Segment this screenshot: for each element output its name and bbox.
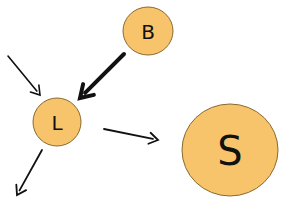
arrow-incoming-to-L: [8, 56, 40, 95]
node-l: L: [33, 98, 81, 146]
edges: [8, 54, 158, 195]
node-label: B: [141, 20, 155, 44]
arrow-shaft: [20, 150, 42, 190]
node-label: L: [51, 111, 63, 135]
arrow-shaft: [8, 56, 37, 91]
node-b: B: [123, 7, 173, 55]
diagram-canvas: BLS: [0, 0, 282, 203]
arrow-B-to-L: [80, 54, 124, 98]
arrow-shaft: [85, 54, 124, 93]
arrow-shaft: [104, 129, 153, 139]
arrow-L-outgoing-down: [16, 150, 42, 195]
node-s: S: [182, 104, 278, 196]
arrow-L-to-right: [104, 129, 158, 144]
nodes: BLS: [33, 7, 278, 196]
node-label: S: [217, 128, 242, 174]
